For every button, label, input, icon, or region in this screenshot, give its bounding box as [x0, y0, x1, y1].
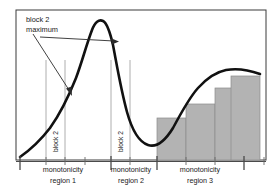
block-2-label-2: block 2 [117, 131, 124, 152]
block-2-label-1: block 2 [52, 131, 59, 152]
region-1-line-1: monotonicity [43, 165, 84, 174]
region-1-line-2: region 1 [50, 176, 76, 185]
callout-line-2: maximum [26, 25, 58, 34]
region-3-line-2: region 3 [187, 176, 213, 185]
bar-4 [231, 76, 260, 160]
bar-1 [157, 118, 186, 160]
region-2-line-2: region 2 [118, 176, 144, 185]
callout-line-1: block 2 [26, 15, 49, 24]
monotonicity-regions-figure: block 2 maximum block 2 block 2 monotoni… [0, 0, 279, 189]
diagram-canvas: block 2 maximum block 2 block 2 monotoni… [0, 0, 279, 189]
region-3-line-1: monotonicity [180, 165, 221, 174]
region-labels: monotonicity region 1 monotonicity regio… [43, 165, 221, 185]
region-2-line-1: monotonicity [111, 165, 152, 174]
bar-2 [186, 104, 215, 160]
